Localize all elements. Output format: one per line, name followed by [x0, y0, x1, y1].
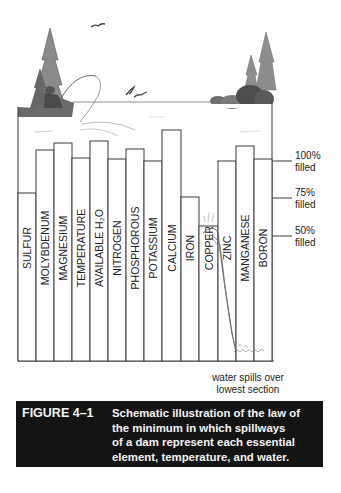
annotation-line-1: water spills over: [198, 372, 298, 384]
bird-icon: [134, 92, 147, 97]
caption-text: Schematic illustration of the law of the…: [112, 406, 300, 462]
stave-label: MOLYBDENUM: [39, 211, 51, 285]
stave-sulfur: SULFUR: [18, 193, 36, 361]
caption-line: element, temperature, and water.: [112, 450, 300, 465]
stave-potassium: POTASSIUM: [144, 161, 162, 361]
stave-molybdenum: MOLYBDENUM: [36, 150, 54, 361]
stave-boron: BORON: [254, 159, 272, 361]
caption-line: Schematic illustration of the law of: [112, 406, 300, 421]
stave-label: PHOSPHOROUS: [129, 207, 141, 290]
stave-label: MAGNESIUM: [57, 216, 69, 281]
stave-label: SULFUR: [21, 227, 33, 269]
stave-label: POTASSIUM: [147, 217, 159, 278]
spill-annotation: water spills over lowest section: [198, 372, 298, 396]
stave-copper: COPPER: [199, 225, 218, 361]
stave-calcium: CALCIUM: [162, 130, 181, 361]
stave-magnesium: MAGNESIUM: [54, 143, 72, 361]
bird-icon: [91, 24, 105, 27]
stave-nitrogen: NITROGEN: [108, 159, 126, 361]
stave-label: CALCIUM: [166, 224, 178, 271]
stave-label: NITROGEN: [111, 220, 123, 275]
pine-tree-icon: [256, 32, 276, 90]
figure-label: FIGURE 4–1: [22, 406, 112, 462]
fill-level-label: 50%filled: [295, 225, 316, 249]
water-ripple: [80, 129, 118, 136]
stave-label: TEMPERATURE: [75, 209, 87, 288]
stave-iron: IRON: [181, 197, 199, 361]
dam-staves: SULFURMOLYBDENUMMAGNESIUMTEMPERATUREAVAI…: [18, 130, 272, 361]
stave-label: AVAILABLE H₂O: [93, 209, 105, 287]
stave-available-h-o: AVAILABLE H₂O: [90, 141, 108, 361]
fill-level-label: 75%filled: [295, 187, 316, 211]
stave-label: MANGANESE: [239, 214, 251, 281]
fill-level-ticks: [272, 161, 292, 236]
stave-label: IRON: [184, 235, 196, 261]
annotation-line-2: lowest section: [198, 384, 298, 396]
stave-phosphorous: PHOSPHOROUS: [126, 149, 144, 361]
stave-label: ZINC: [221, 235, 233, 260]
dam-illustration: SULFURMOLYBDENUMMAGNESIUMTEMPERATUREAVAI…: [0, 0, 341, 400]
stave-label: BORON: [257, 229, 269, 268]
figure-caption: FIGURE 4–1 Schematic illustration of the…: [16, 401, 323, 467]
bird-icon: [126, 87, 134, 95]
stave-zinc: ZINC: [218, 161, 236, 361]
scenery: [18, 24, 276, 136]
stave-temperature: TEMPERATURE: [72, 158, 90, 361]
fill-level-label: 100%filled: [295, 150, 321, 174]
caption-line: the minimum in which spillways: [112, 421, 300, 436]
stave-manganese: MANGANESE: [236, 146, 254, 361]
caption-line: of a dam represent each essential: [112, 435, 300, 450]
